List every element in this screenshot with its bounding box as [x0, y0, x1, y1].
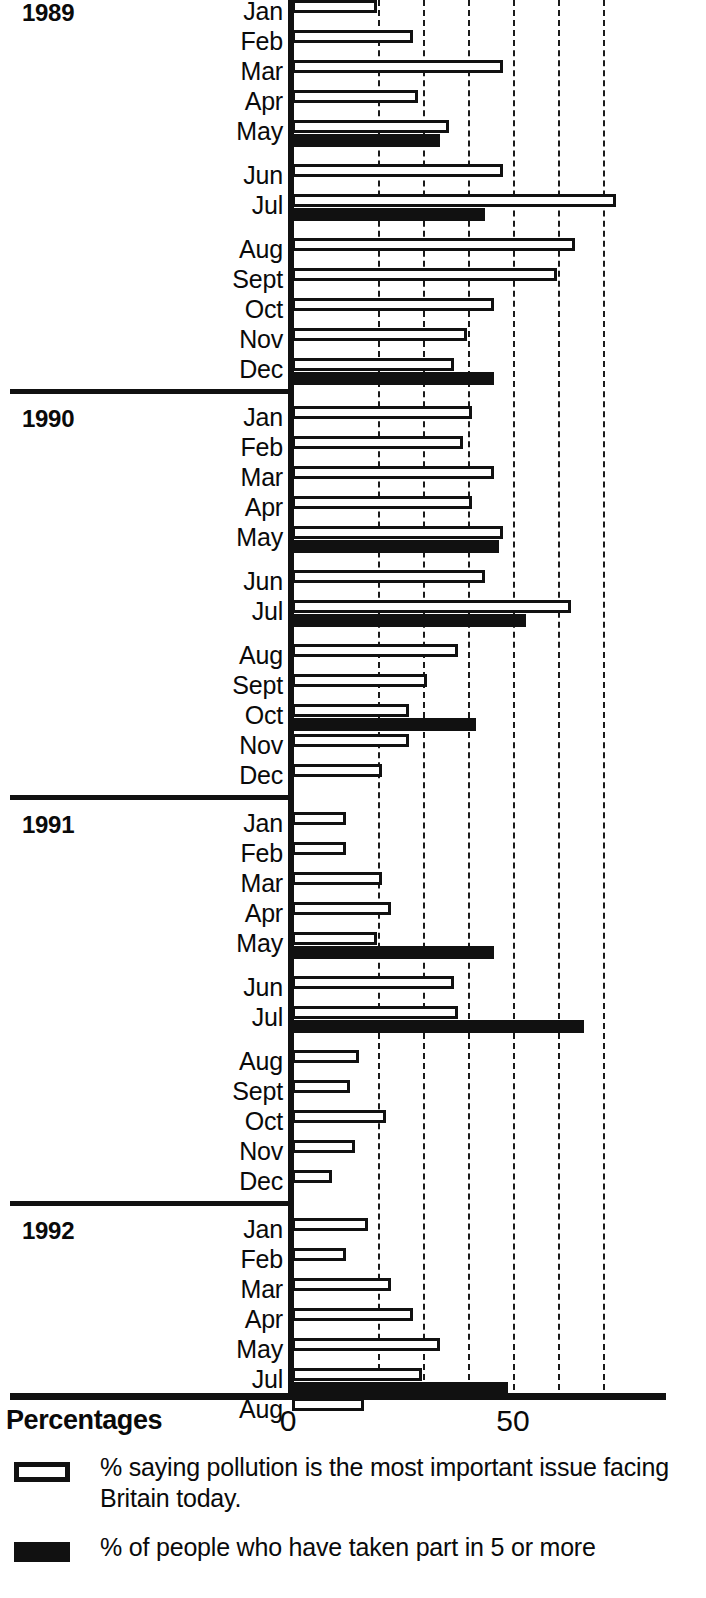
month-label: Oct [123, 701, 283, 730]
x-axis-baseline [10, 1393, 666, 1400]
month-label: May [123, 117, 283, 146]
bar-row: May [0, 523, 706, 553]
bar-row: Feb [0, 839, 706, 869]
bar-black [292, 614, 526, 627]
bar-white [292, 1006, 458, 1019]
bar-black [292, 134, 440, 147]
month-label: Feb [123, 433, 283, 462]
bar-white [292, 1110, 386, 1123]
x-axis-tick-label: 0 [280, 1404, 297, 1438]
bar-row: Sept [0, 671, 706, 701]
month-label: Sept [123, 671, 283, 700]
bar-white [292, 164, 503, 177]
bar-row: Dec [0, 355, 706, 385]
month-label: Aug [123, 235, 283, 264]
bar-white [292, 976, 454, 989]
bar-chart: JanFebMarAprMayJunJulAugSeptOctNovDecJan… [0, 0, 706, 1400]
month-label: Dec [123, 761, 283, 790]
bar-white [292, 358, 454, 371]
month-label: Aug [123, 641, 283, 670]
bar-row: Jan [0, 1215, 706, 1245]
month-label: Oct [123, 1107, 283, 1136]
month-label: Jan [123, 403, 283, 432]
open-rectangle-icon [14, 1462, 70, 1482]
year-label: 1990 [22, 405, 74, 433]
bar-row: May [0, 929, 706, 959]
month-label: Jan [123, 1215, 283, 1244]
bar-white [292, 496, 472, 509]
bar-row: Jan [0, 403, 706, 433]
chart-legend: % saying pollution is the most important… [0, 1452, 706, 1592]
bar-white [292, 764, 382, 777]
bar-white [292, 674, 427, 687]
bar-white [292, 600, 571, 613]
bar-white [292, 734, 409, 747]
bar-row: Oct [0, 1107, 706, 1137]
bar-white [292, 406, 472, 419]
bar-row: Jan [0, 0, 706, 27]
month-label: Sept [123, 265, 283, 294]
bar-black [292, 208, 485, 221]
bar-white [292, 1140, 355, 1153]
bar-row: Jan [0, 809, 706, 839]
bar-white [292, 570, 485, 583]
bar-row: Jul [0, 597, 706, 627]
month-label: Mar [123, 57, 283, 86]
bar-black [292, 946, 494, 959]
zero-axis-line [288, 0, 294, 1395]
bar-white [292, 436, 463, 449]
month-label: Jul [123, 1365, 283, 1394]
filled-rectangle-icon [14, 1542, 70, 1562]
bar-row: Mar [0, 463, 706, 493]
bar-white [292, 1338, 440, 1351]
bar-white [292, 842, 346, 855]
month-label: Nov [123, 325, 283, 354]
bar-row: Dec [0, 1167, 706, 1197]
bar-black [292, 540, 499, 553]
bar-white [292, 1278, 391, 1291]
bar-white [292, 298, 494, 311]
bar-row: Sept [0, 1077, 706, 1107]
legend-item-label: % of people who have taken part in 5 or … [100, 1532, 700, 1563]
month-label: Jun [123, 973, 283, 1002]
bar-row: Feb [0, 1245, 706, 1275]
bar-white [292, 90, 418, 103]
month-label: Feb [123, 839, 283, 868]
bar-white [292, 194, 616, 207]
bar-row: Jul [0, 1365, 706, 1395]
year-label: 1991 [22, 811, 74, 839]
month-label: May [123, 523, 283, 552]
bar-white [292, 902, 391, 915]
bar-row: Nov [0, 1137, 706, 1167]
bar-row: Apr [0, 493, 706, 523]
month-label: Jul [123, 1003, 283, 1032]
month-label: Dec [123, 1167, 283, 1196]
bar-row: Feb [0, 433, 706, 463]
bar-row: May [0, 1335, 706, 1365]
bar-white [292, 526, 503, 539]
year-divider [10, 1201, 292, 1206]
bar-row: Jul [0, 191, 706, 221]
month-label: Aug [123, 1047, 283, 1076]
year-divider [10, 389, 292, 394]
bar-row: Nov [0, 731, 706, 761]
bar-white [292, 872, 382, 885]
x-axis-title: Percentages [6, 1405, 162, 1436]
bar-white [292, 238, 575, 251]
month-label: Apr [123, 493, 283, 522]
month-label: Feb [123, 27, 283, 56]
bar-row: Dec [0, 761, 706, 791]
bar-row: Apr [0, 899, 706, 929]
bar-row: Jun [0, 161, 706, 191]
bar-row: Aug [0, 641, 706, 671]
bar-white [292, 60, 503, 73]
bar-row: Sept [0, 265, 706, 295]
month-label: Mar [123, 869, 283, 898]
month-label: Apr [123, 87, 283, 116]
bar-row: Mar [0, 869, 706, 899]
bar-row: Mar [0, 57, 706, 87]
bar-white [292, 704, 409, 717]
month-label: Jul [123, 191, 283, 220]
bar-row: Mar [0, 1275, 706, 1305]
legend-item: % of people who have taken part in 5 or … [0, 1532, 706, 1592]
